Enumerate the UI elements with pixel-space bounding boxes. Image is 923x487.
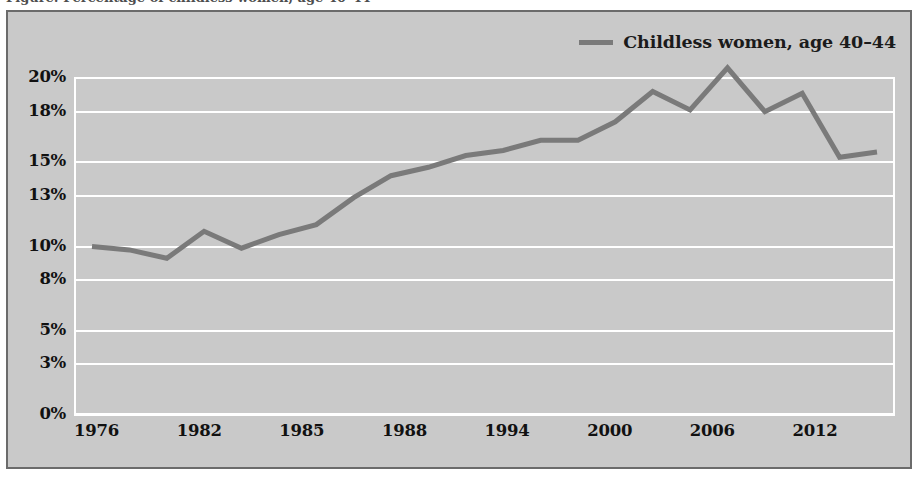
y-axis-tick-label: 8% [10,269,66,288]
chart-legend: Childless women, age 40–44 [579,32,896,52]
y-axis-tick-label: 13% [10,185,66,204]
legend-entry-label: Childless women, age 40–44 [623,32,896,52]
x-axis-tick-label: 1994 [467,421,547,440]
cut-off-caption-text: Figure: Percentage of childless women, a… [0,0,923,2]
y-axis-tick-label: 3% [10,353,66,372]
y-axis-tick-label: 5% [10,320,66,339]
y-axis-tick-label: 10% [10,236,66,255]
legend-line-swatch-icon [579,40,613,45]
y-axis-tick-label: 20% [10,67,66,86]
x-axis-tick-label: 2000 [570,421,650,440]
chart-figure: Figure: Percentage of childless women, a… [0,0,923,487]
cut-off-caption: Figure: Percentage of childless women, a… [0,0,923,9]
y-axis-tick-label: 15% [10,151,66,170]
x-axis-tick-label: 1985 [262,421,342,440]
x-axis-tick-label: 1976 [57,421,137,440]
series-layer [74,78,895,415]
x-axis-tick-label: 1982 [159,421,239,440]
x-axis-tick-label: 2006 [672,421,752,440]
y-axis-tick-label: 18% [10,101,66,120]
series-line-childless-women [92,68,877,258]
x-axis-tick-label: 1988 [364,421,444,440]
x-axis-tick-label: 2012 [775,421,855,440]
